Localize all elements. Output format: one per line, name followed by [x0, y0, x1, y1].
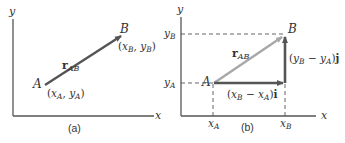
- vector-label-b: rAB: [232, 47, 250, 61]
- x-axis-label-a: x: [155, 109, 162, 122]
- panel-a: y x A B rAB (xA, yA) (xB, yB) (a): [8, 5, 162, 134]
- coord-B-a: (xB, yB): [118, 40, 156, 54]
- coord-A-a: (xA, yA): [47, 87, 85, 101]
- point-B-label-a: B: [119, 22, 129, 36]
- tick-label-xA: xA: [208, 117, 220, 131]
- point-B-label-b: B: [287, 22, 297, 36]
- vector-rAB-a: [45, 36, 121, 85]
- point-A-label-b: A: [201, 75, 211, 89]
- tick-label-xB: xB: [280, 117, 292, 131]
- caption-a: (a): [68, 122, 81, 134]
- tick-label-yA: yA: [163, 76, 176, 90]
- tick-label-yB: yB: [163, 27, 176, 41]
- point-A-label-a: A: [32, 77, 42, 91]
- panel-b: y x A B rAB yB yA xA xB: [163, 3, 339, 133]
- caption-b: (b): [241, 121, 254, 133]
- y-component-label: (yB − yA)j: [289, 52, 339, 66]
- x-axis-label-b: x: [321, 109, 328, 122]
- x-component-label: (xB − xA)i: [227, 88, 277, 102]
- y-axis-label-b: y: [176, 3, 184, 16]
- vector-label-a: rAB: [62, 59, 80, 73]
- y-axis-label-a: y: [8, 5, 16, 18]
- position-vector-diagram: y x A B rAB (xA, yA) (xB, yB) (a) y x: [0, 0, 345, 143]
